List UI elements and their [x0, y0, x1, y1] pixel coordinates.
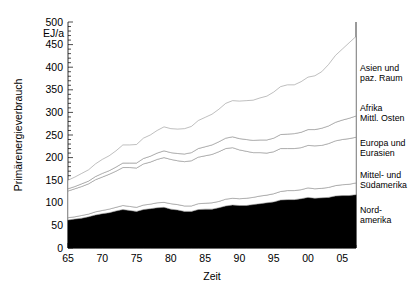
x-tick-label: 90 — [234, 252, 246, 264]
series-label: Mittel- und — [360, 170, 401, 180]
x-axis-tick-labels: 657075808590950005 — [62, 252, 348, 264]
y-tick-label: 250 — [45, 129, 63, 141]
y-axis-title: Primärenergieverbrauch — [12, 79, 24, 192]
series-label: Südamerika — [360, 180, 407, 190]
y-tick-label: 300 — [45, 106, 63, 118]
series-label: amerika — [360, 215, 391, 225]
y-tick-label: 200 — [45, 151, 63, 163]
y-tick-label: 400 — [45, 61, 63, 73]
x-tick-label: 75 — [131, 252, 143, 264]
series-label: Afrika — [360, 103, 383, 113]
y-tick-label: 100 — [45, 196, 63, 208]
x-axis-title: Zeit — [203, 270, 221, 282]
y-tick-label: 150 — [45, 174, 63, 186]
x-tick-label: 05 — [336, 252, 348, 264]
x-tick-label: 00 — [302, 252, 314, 264]
series-bands-group — [68, 36, 356, 248]
series-label: Asien und — [360, 63, 399, 73]
y-tick-label: 50 — [51, 219, 63, 231]
chart-svg: 050100150200250300350400450500 657075808… — [0, 0, 417, 287]
x-tick-label: 65 — [62, 252, 74, 264]
primary-energy-consumption-chart: 050100150200250300350400450500 657075808… — [0, 0, 417, 287]
series-labels-group: Nord-amerikaMittel- undSüdamerikaEuropa … — [360, 63, 407, 225]
x-tick-label: 85 — [199, 252, 211, 264]
x-tick-label: 95 — [268, 252, 280, 264]
y-tick-label: 500 — [45, 16, 63, 28]
series-label: paz. Raum — [360, 73, 403, 83]
series-label: Eurasien — [360, 148, 395, 158]
y-axis-tick-labels: 050100150200250300350400450500 — [45, 16, 63, 254]
x-tick-label: 70 — [96, 252, 108, 264]
y-tick-label: 350 — [45, 83, 63, 95]
y-tick-label: 450 — [45, 38, 63, 50]
series-label: Europa und — [360, 138, 406, 148]
series-label: Mittl. Osten — [360, 113, 405, 123]
x-tick-label: 80 — [165, 252, 177, 264]
series-label: Nord- — [360, 205, 382, 215]
y-axis-unit-label: EJ/a — [43, 27, 64, 39]
